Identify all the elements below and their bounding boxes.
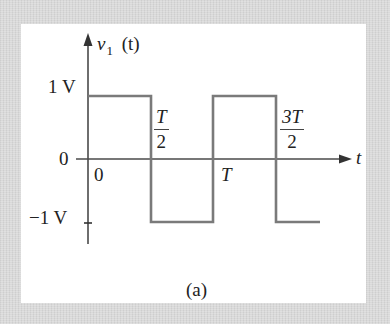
y-axis-arrow-icon	[84, 33, 93, 46]
fraction-bar	[154, 129, 169, 130]
half-period-denominator: 2	[157, 132, 167, 151]
fraction-bar	[280, 129, 304, 130]
y-tick-label-low: −1 V	[29, 208, 67, 227]
y-axis-subscript: 1	[106, 43, 113, 58]
half-period-numerator: T	[154, 107, 169, 126]
y-axis-label: v1 (t)	[97, 34, 140, 53]
x-axis-arrow-icon	[339, 155, 352, 164]
y-tick-label-high: 1 V	[48, 77, 76, 96]
three-half-period-denominator: 2	[287, 132, 297, 151]
y-axis-var: v	[97, 33, 105, 54]
three-half-period-numerator: 3T	[280, 107, 304, 126]
x-tick-label-three-half-period: 3T 2	[280, 107, 304, 151]
y-tick-label-zero: 0	[59, 149, 69, 168]
x-tick-label-origin: 0	[94, 165, 104, 184]
figure-caption: (a)	[186, 280, 207, 299]
x-tick-label-half-period: T 2	[154, 107, 169, 151]
x-axis-label: t	[356, 148, 361, 167]
x-tick-label-period: T	[221, 165, 232, 184]
y-axis-arg: (t)	[122, 33, 140, 54]
